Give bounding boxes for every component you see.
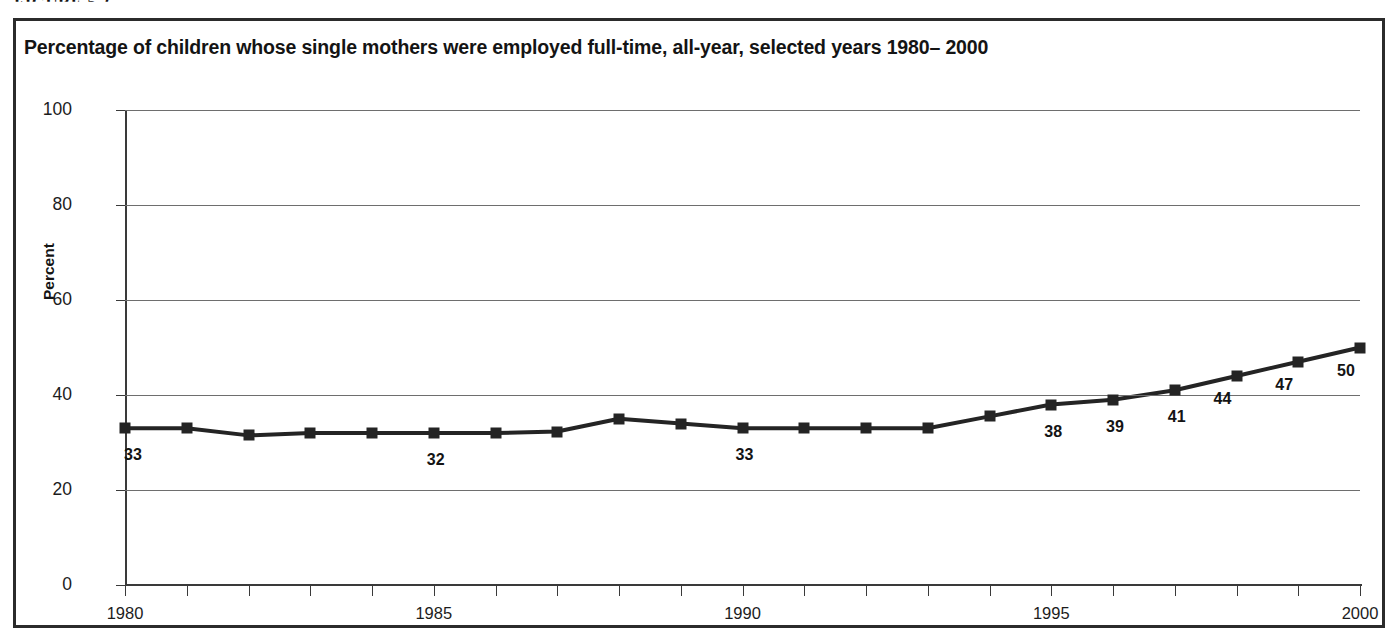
data-point-marker [1108, 394, 1119, 405]
x-axis-tick-mark [310, 585, 311, 596]
y-axis-tick-label: 40 [12, 384, 72, 405]
figure-root: FIGURE 5.2 Percentage of children whose … [0, 0, 1398, 638]
x-axis-tick-mark [187, 585, 188, 596]
x-axis-tick-mark [249, 585, 250, 596]
y-axis-tick-label: 20 [12, 479, 72, 500]
y-axis-tick-mark [116, 585, 125, 586]
data-point-label: 47 [1275, 376, 1293, 394]
data-point-label: 50 [1337, 362, 1355, 380]
x-axis-tick-label: 1990 [724, 604, 761, 623]
x-axis-tick-mark [1051, 585, 1052, 596]
gridline [125, 110, 1360, 111]
x-axis-tick-mark [619, 585, 620, 596]
x-axis-tick-mark [1237, 585, 1238, 596]
y-axis-tick-label: 60 [12, 289, 72, 310]
data-point-marker [1355, 342, 1366, 353]
data-point-marker [984, 411, 995, 422]
data-point-marker [1231, 371, 1242, 382]
x-axis-tick-mark [1113, 585, 1114, 596]
x-axis-tick-label: 1995 [1033, 604, 1070, 623]
data-point-label: 33 [124, 446, 142, 464]
data-point-label: 38 [1044, 423, 1062, 441]
data-point-marker [737, 423, 748, 434]
chart-title: Percentage of children whose single moth… [24, 36, 988, 59]
gridline [125, 490, 1360, 491]
data-point-marker [120, 423, 131, 434]
figure-number-header: FIGURE 5.2 [14, 0, 110, 13]
data-point-marker [181, 423, 192, 434]
data-point-label: 39 [1106, 418, 1124, 436]
data-series-line [125, 110, 1360, 585]
y-axis-tick-mark [116, 110, 125, 111]
x-axis-tick-mark [681, 585, 682, 596]
data-point-marker [861, 423, 872, 434]
y-axis-tick-label: 80 [12, 194, 72, 215]
data-point-marker [490, 428, 501, 439]
x-axis-tick-mark [372, 585, 373, 596]
gridline [125, 205, 1360, 206]
x-axis-tick-label: 2000 [1342, 604, 1379, 623]
x-axis-tick-mark [557, 585, 558, 596]
x-axis-tick-mark [125, 585, 126, 596]
data-point-marker [799, 423, 810, 434]
data-point-marker [1293, 356, 1304, 367]
x-axis-tick-mark [434, 585, 435, 596]
x-axis-tick-mark [496, 585, 497, 596]
x-axis-tick-mark [743, 585, 744, 596]
data-point-label: 33 [736, 446, 754, 464]
x-axis-tick-mark [990, 585, 991, 596]
x-axis-tick-label: 1980 [107, 604, 144, 623]
data-point-marker [243, 430, 254, 441]
data-point-marker [1169, 385, 1180, 396]
y-axis-tick-label: 100 [12, 99, 72, 120]
data-point-marker [922, 423, 933, 434]
plot-area: 0204060801001980198519901995200033323338… [125, 110, 1360, 585]
x-axis-tick-mark [866, 585, 867, 596]
y-axis-tick-label: 0 [12, 574, 72, 595]
data-point-marker [305, 428, 316, 439]
y-axis-tick-mark [116, 395, 125, 396]
data-point-marker [675, 418, 686, 429]
y-axis-tick-mark [116, 300, 125, 301]
x-axis-tick-mark [804, 585, 805, 596]
data-point-marker [614, 413, 625, 424]
data-point-label: 44 [1214, 390, 1232, 408]
x-axis-tick-mark [928, 585, 929, 596]
y-axis-tick-mark [116, 205, 125, 206]
x-axis-tick-label: 1985 [415, 604, 452, 623]
data-point-label: 41 [1168, 408, 1186, 426]
x-axis-tick-mark [1175, 585, 1176, 596]
data-point-marker [552, 426, 563, 437]
y-axis-tick-mark [116, 490, 125, 491]
x-axis-tick-mark [1298, 585, 1299, 596]
data-point-marker [428, 428, 439, 439]
data-point-label: 32 [427, 451, 445, 469]
data-point-marker [367, 428, 378, 439]
x-axis-tick-mark [1360, 585, 1361, 596]
gridline [125, 300, 1360, 301]
data-point-marker [1046, 399, 1057, 410]
